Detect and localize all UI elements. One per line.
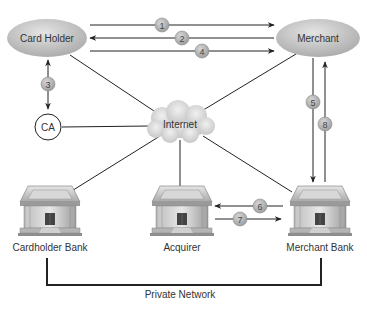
- step-badge-1: 1: [155, 18, 169, 32]
- step-badge-8: 8: [318, 117, 332, 131]
- bank-icon: [150, 186, 214, 236]
- step-badge-3: 3: [41, 77, 55, 91]
- cardholder-bank-node: Cardholder Bank: [12, 186, 88, 253]
- merchant-bank-node: Merchant Bank: [286, 186, 354, 253]
- bank-icon: [288, 186, 352, 236]
- acquirer-label: Acquirer: [163, 242, 201, 253]
- step-badge-4: 4: [195, 44, 209, 58]
- ca-label: CA: [41, 122, 55, 133]
- card-holder-label: Card Holder: [20, 33, 75, 44]
- private-network-label: Private Network: [145, 289, 217, 300]
- svg-text:7: 7: [237, 215, 242, 225]
- svg-text:1: 1: [159, 21, 164, 31]
- step-badge-6: 6: [253, 199, 267, 213]
- acquirer-node: Acquirer: [150, 186, 214, 253]
- internet-label: Internet: [163, 119, 197, 130]
- merchant-bank-label: Merchant Bank: [286, 242, 354, 253]
- merchant-node: Merchant: [276, 19, 360, 57]
- step-badge-2: 2: [175, 31, 189, 45]
- merchant-label: Merchant: [297, 33, 339, 44]
- svg-text:6: 6: [257, 202, 262, 212]
- svg-text:4: 4: [199, 47, 204, 57]
- payment-flow-diagram: Private Network Card Holder Merchant CA: [0, 0, 367, 310]
- private-network-line: [47, 258, 321, 285]
- svg-text:2: 2: [179, 34, 184, 44]
- svg-text:3: 3: [45, 80, 50, 90]
- step-badge-5: 5: [306, 95, 320, 109]
- ca-node: CA: [35, 114, 61, 140]
- step-badge-7: 7: [233, 212, 247, 226]
- bank-icon: [18, 186, 82, 236]
- cardholder-bank-label: Cardholder Bank: [12, 242, 88, 253]
- card-holder-node: Card Holder: [7, 19, 87, 57]
- svg-text:8: 8: [322, 120, 327, 130]
- svg-text:5: 5: [310, 98, 315, 108]
